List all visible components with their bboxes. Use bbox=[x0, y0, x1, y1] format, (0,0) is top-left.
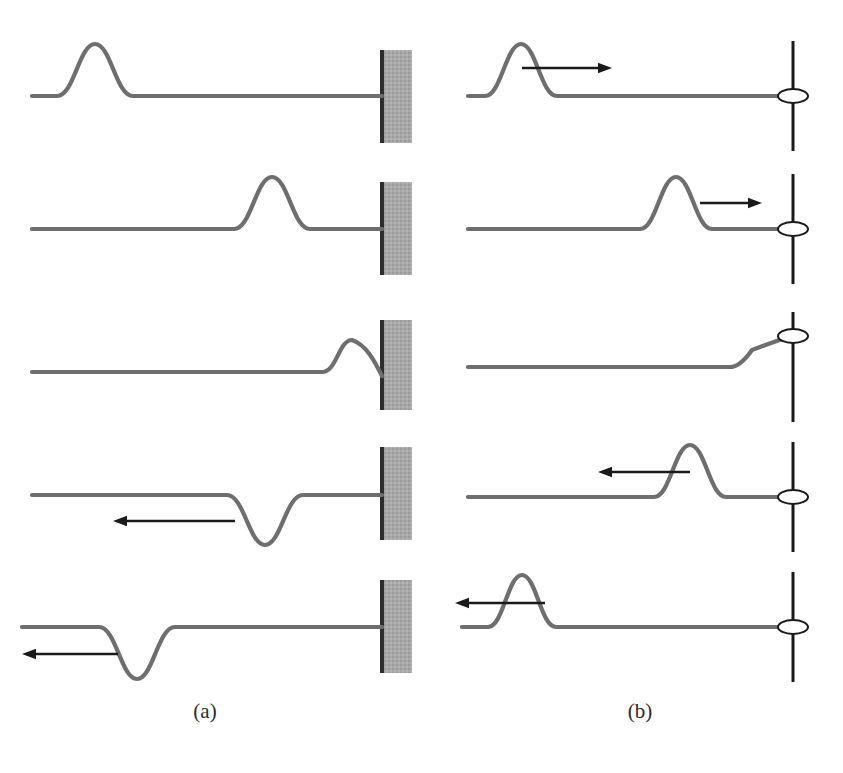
fixed-end-wall-1 bbox=[380, 50, 412, 143]
figure-container: (a) (b) bbox=[0, 0, 843, 773]
fixed-end-wall-5 bbox=[380, 580, 412, 673]
figure-background bbox=[0, 0, 843, 773]
free-end-ring-1 bbox=[778, 89, 808, 103]
fixed-end-wall-2 bbox=[380, 182, 412, 275]
panel-label-b: (b) bbox=[628, 699, 653, 723]
free-end-ring-3 bbox=[778, 329, 808, 343]
free-end-ring-2 bbox=[778, 222, 808, 236]
fixed-end-wall-edge-3 bbox=[380, 320, 384, 410]
figure-canvas: (a) (b) bbox=[0, 0, 843, 773]
fixed-end-wall-4 bbox=[380, 447, 412, 540]
free-end-ring-5 bbox=[778, 620, 808, 634]
panel-label-a: (a) bbox=[193, 699, 216, 723]
free-end-ring-4 bbox=[778, 490, 808, 504]
fixed-end-wall-3 bbox=[380, 320, 412, 410]
